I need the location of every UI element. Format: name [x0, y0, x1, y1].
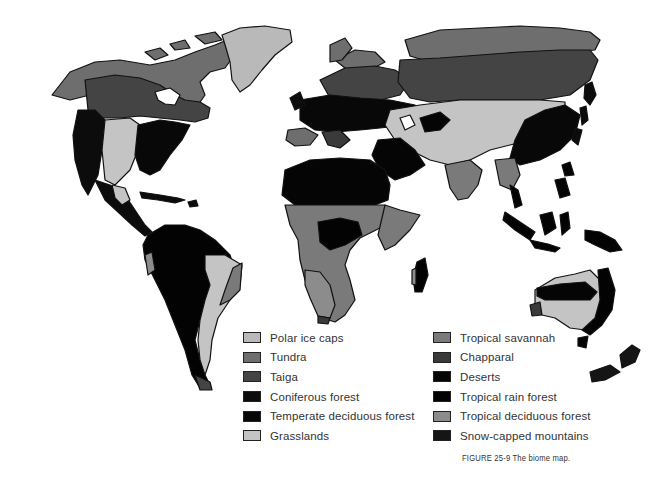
swatch-chapparal — [433, 352, 451, 363]
legend-item-deserts: Deserts — [433, 367, 591, 387]
swatch-tropical-savannah — [433, 332, 451, 343]
legend-label: Temperate deciduous forest — [270, 410, 415, 422]
legend-item-grasslands: Grasslands — [243, 426, 415, 446]
legend-left-column: Polar ice caps Tundra Taiga Coniferous f… — [243, 328, 415, 446]
legend-label: Deserts — [460, 371, 500, 383]
legend-item-taiga: Taiga — [243, 367, 415, 387]
legend-label: Chapparal — [460, 351, 514, 363]
swatch-polar-ice-caps — [243, 332, 261, 343]
legend-item-tropical-savannah: Tropical savannah — [433, 328, 591, 348]
legend-label: Polar ice caps — [270, 332, 344, 344]
figure-caption: FIGURE 25-9 The biome map. — [462, 453, 570, 463]
legend-label: Taiga — [270, 371, 298, 383]
legend-label: Tropical savannah — [460, 332, 555, 344]
swatch-taiga — [243, 371, 261, 382]
swatch-temperate-deciduous-forest — [243, 411, 261, 422]
legend-item-tropical-deciduous-forest: Tropical deciduous forest — [433, 406, 591, 426]
legend-item-coniferous-forest: Coniferous forest — [243, 387, 415, 407]
legend-label: Coniferous forest — [270, 391, 359, 403]
greenland-ice-cap — [222, 26, 292, 92]
africa-rainforest — [318, 218, 362, 250]
legend-label: Tundra — [270, 351, 307, 363]
swatch-tundra — [243, 352, 261, 363]
legend-item-polar-ice-caps: Polar ice caps — [243, 328, 415, 348]
swatch-deserts — [433, 371, 451, 382]
legend-label: Grasslands — [270, 430, 329, 442]
legend-label: Tropical deciduous forest — [460, 410, 591, 422]
swatch-tropical-rain-forest — [433, 391, 451, 402]
legend-item-tundra: Tundra — [243, 348, 415, 368]
north-america-grasslands — [102, 118, 140, 185]
swatch-grasslands — [243, 430, 261, 441]
legend-right-column: Tropical savannah Chapparal Deserts Trop… — [433, 328, 591, 446]
swatch-tropical-deciduous-forest — [433, 411, 451, 422]
africa-desert — [282, 158, 390, 205]
india-savannah — [445, 160, 482, 200]
swatch-coniferous-forest — [243, 391, 261, 402]
legend-label: Snow-capped mountains — [460, 430, 589, 442]
north-america-deciduous — [135, 120, 190, 175]
new-zealand — [620, 345, 640, 368]
swatch-snow-capped-mountains — [433, 430, 451, 441]
legend-item-chapparal: Chapparal — [433, 348, 591, 368]
legend-label: Tropical rain forest — [460, 391, 557, 403]
legend-item-temperate-deciduous-forest: Temperate deciduous forest — [243, 406, 415, 426]
legend-item-tropical-rain-forest: Tropical rain forest — [433, 387, 591, 407]
africa-east-savannah — [378, 205, 420, 250]
legend-item-snow-capped-mountains: Snow-capped mountains — [433, 426, 591, 446]
